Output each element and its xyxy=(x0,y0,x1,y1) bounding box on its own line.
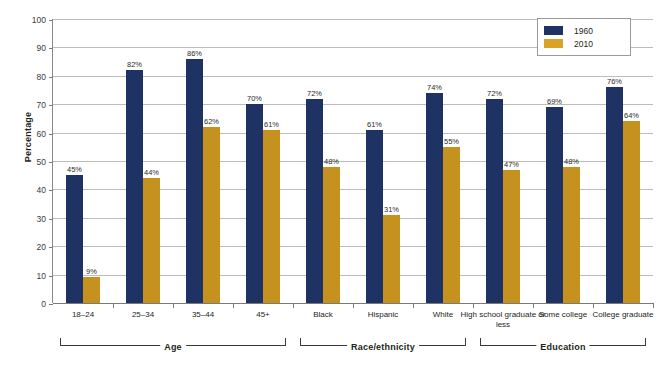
y-axis-title: Percentage xyxy=(23,77,33,197)
legend-label-1960: 1960 xyxy=(574,26,593,36)
bar-2010-2: 62% xyxy=(203,127,220,303)
y-tick-mark-0 xyxy=(49,304,53,305)
bar-value-label: 69% xyxy=(547,97,562,106)
group-bracket-1: Race/ethnicity xyxy=(300,338,466,346)
y-tick-label-70: 70 xyxy=(37,100,46,110)
y-tick-label-10: 10 xyxy=(37,271,46,281)
bar-value-label: 9% xyxy=(86,267,97,276)
bar-1960-9: 76% xyxy=(606,87,623,303)
bar-value-label: 55% xyxy=(444,137,459,146)
legend-swatch-icon-1960 xyxy=(544,26,563,35)
bar-1960-0: 45% xyxy=(66,175,83,303)
legend-swatch-icon-2010 xyxy=(544,39,563,48)
bar-value-label: 86% xyxy=(187,49,202,58)
y-tick-label-50: 50 xyxy=(37,157,46,167)
x-tick-9 xyxy=(653,303,654,308)
bar-2010-4: 48% xyxy=(323,167,340,303)
bar-value-label: 47% xyxy=(504,160,519,169)
plot-area: 0102030405060708090100 45%9%82%44%86%62%… xyxy=(52,19,653,303)
bar-2010-5: 31% xyxy=(383,215,400,303)
bars-layer: 45%9%82%44%86%62%70%61%72%48%61%31%74%55… xyxy=(53,19,653,303)
bar-2010-6: 55% xyxy=(443,147,460,303)
bar-value-label: 48% xyxy=(564,157,579,166)
bar-1960-4: 72% xyxy=(306,99,323,303)
bar-1960-6: 74% xyxy=(426,93,443,303)
bar-1960-5: 61% xyxy=(366,130,383,303)
x-tick-4 xyxy=(353,303,354,308)
bar-2010-1: 44% xyxy=(143,178,160,303)
bar-value-label: 70% xyxy=(247,94,262,103)
group-label-2: Education xyxy=(536,342,589,352)
category-label-9: College graduate xyxy=(580,310,666,320)
bar-value-label: 61% xyxy=(367,120,382,129)
bar-1960-2: 86% xyxy=(186,59,203,303)
y-tick-label-90: 90 xyxy=(37,43,46,53)
x-tick-1 xyxy=(173,303,174,308)
bar-1960-7: 72% xyxy=(486,99,503,303)
y-tick-label-80: 80 xyxy=(37,72,46,82)
bar-value-label: 82% xyxy=(127,60,142,69)
x-tick-7 xyxy=(533,303,534,308)
bar-value-label: 45% xyxy=(67,165,82,174)
bar-value-label: 44% xyxy=(144,168,159,177)
bar-chart: Percentage 0102030405060708090100 45%9%8… xyxy=(0,0,667,365)
x-tick-8 xyxy=(593,303,594,308)
x-tick-5 xyxy=(413,303,414,308)
group-label-1: Race/ethnicity xyxy=(347,342,419,352)
bar-value-label: 64% xyxy=(624,111,639,120)
bar-2010-3: 61% xyxy=(263,130,280,303)
group-bracket-0: Age xyxy=(60,338,286,346)
y-tick-label-60: 60 xyxy=(37,129,46,139)
bar-1960-1: 82% xyxy=(126,70,143,303)
bar-value-label: 61% xyxy=(264,120,279,129)
bar-2010-7: 47% xyxy=(503,170,520,303)
x-tick-3 xyxy=(293,303,294,308)
bar-value-label: 31% xyxy=(384,205,399,214)
bar-value-label: 72% xyxy=(487,89,502,98)
y-tick-label-0: 0 xyxy=(41,299,46,309)
chart-legend: 1960 2010 xyxy=(537,18,631,56)
bar-2010-8: 48% xyxy=(563,167,580,303)
group-bracket-2: Education xyxy=(480,338,646,346)
y-tick-label-30: 30 xyxy=(37,214,46,224)
bar-1960-3: 70% xyxy=(246,104,263,303)
group-label-0: Age xyxy=(160,342,186,352)
bar-value-label: 76% xyxy=(607,77,622,86)
bar-value-label: 74% xyxy=(427,83,442,92)
bar-value-label: 72% xyxy=(307,89,322,98)
legend-label-2010: 2010 xyxy=(574,39,593,49)
legend-item-1960: 1960 xyxy=(544,24,623,37)
y-tick-label-40: 40 xyxy=(37,185,46,195)
x-tick-6 xyxy=(473,303,474,308)
x-tick-2 xyxy=(233,303,234,308)
legend-item-2010: 2010 xyxy=(544,37,623,50)
y-tick-label-20: 20 xyxy=(37,242,46,252)
bar-2010-9: 64% xyxy=(623,121,640,303)
bar-value-label: 62% xyxy=(204,117,219,126)
bar-2010-0: 9% xyxy=(83,277,100,303)
y-tick-label-100: 100 xyxy=(32,15,46,25)
x-tick-0 xyxy=(113,303,114,308)
bar-1960-8: 69% xyxy=(546,107,563,303)
bar-value-label: 48% xyxy=(324,157,339,166)
